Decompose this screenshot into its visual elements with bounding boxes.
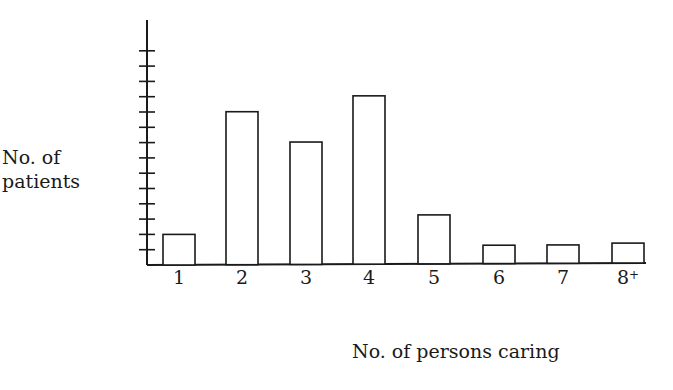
- bar-3: [290, 142, 322, 264]
- bar-1: [163, 234, 195, 265]
- x-tick-label-3: 3: [286, 266, 326, 288]
- x-tick-label-6: 6: [479, 266, 519, 288]
- bar-6: [483, 245, 515, 263]
- x-tick-label-8plus: 8+: [608, 266, 648, 288]
- bar-2: [226, 112, 258, 265]
- x-tick-label-1: 1: [159, 266, 199, 288]
- chart-bars: [163, 96, 644, 265]
- bar-5: [418, 215, 450, 264]
- x-tick-label-4: 4: [349, 266, 389, 288]
- x-tick-label-2: 2: [222, 266, 262, 288]
- y-axis-label: No. of patients: [2, 145, 80, 193]
- bar-4: [353, 96, 385, 264]
- x-axis-label: No. of persons caring for a patient (fro…: [352, 294, 560, 390]
- y-axis-label-line-1: No. of: [2, 145, 80, 169]
- y-axis-label-line-2: patients: [2, 169, 80, 193]
- bar-8plus: [612, 243, 644, 263]
- bar-7: [547, 245, 579, 263]
- x-tick-label-7: 7: [543, 266, 583, 288]
- chart-axes: [139, 20, 646, 265]
- x-tick-label-5: 5: [414, 266, 454, 288]
- x-axis-label-line-1: No. of persons caring: [352, 340, 560, 363]
- bar-chart: [0, 0, 673, 390]
